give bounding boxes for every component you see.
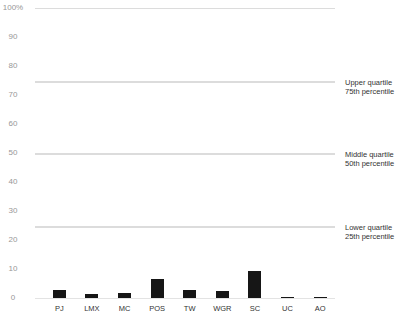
bar-lmx [85, 294, 98, 298]
y-tick-label: 70 [0, 91, 26, 99]
x-tick-label-ao: AO [304, 304, 337, 313]
bar-ao [314, 297, 327, 298]
annotation-percentile-name: 25th percentile [345, 232, 405, 241]
bar-pj [53, 290, 66, 298]
x-tick-label-mc: MC [108, 304, 141, 313]
annotation-percentile-name: 75th percentile [345, 87, 405, 96]
y-tick-label: 90 [0, 33, 26, 41]
annotation-middle-quartile: Middle quartile50th percentile [345, 150, 405, 168]
x-tick-label-pj: PJ [43, 304, 76, 313]
bar-tw [183, 290, 196, 298]
gridline-100 [35, 8, 335, 9]
x-tick-label-sc: SC [239, 304, 272, 313]
bar-uc [281, 297, 294, 298]
y-tick-label: 100% [0, 4, 26, 12]
x-tick-label-pos: POS [141, 304, 174, 313]
x-tick-label-lmx: LMX [76, 304, 109, 313]
x-axis-baseline [35, 298, 335, 299]
x-tick-label-tw: TW [173, 304, 206, 313]
bar-pos [151, 279, 164, 298]
bar-wgr [216, 291, 229, 298]
y-tick-label: 80 [0, 62, 26, 70]
y-tick-label: 60 [0, 120, 26, 128]
annotation-quartile-name: Upper quartile [345, 78, 405, 87]
annotation-lower-quartile: Lower quartile25th percentile [345, 223, 405, 241]
y-tick-label: 50 [0, 149, 26, 157]
annotation-quartile-name: Middle quartile [345, 150, 405, 159]
bar-sc [248, 271, 261, 298]
annotation-percentile-name: 50th percentile [345, 159, 405, 168]
x-tick-label-wgr: WGR [206, 304, 239, 313]
y-tick-label: 40 [0, 178, 26, 186]
y-tick-label: 0 [0, 294, 26, 302]
x-tick-label-uc: UC [271, 304, 304, 313]
gridline-25 [35, 226, 335, 228]
y-tick-label: 30 [0, 207, 26, 215]
bar-mc [118, 293, 131, 298]
annotation-quartile-name: Lower quartile [345, 223, 405, 232]
gridline-50 [35, 153, 335, 155]
percentile-bar-chart: 100%9080706050403020100 PJLMXMCPOSTWWGRS… [0, 0, 405, 322]
gridline-75 [35, 81, 335, 83]
annotation-upper-quartile: Upper quartile75th percentile [345, 78, 405, 96]
y-tick-label: 20 [0, 236, 26, 244]
y-tick-label: 10 [0, 265, 26, 273]
